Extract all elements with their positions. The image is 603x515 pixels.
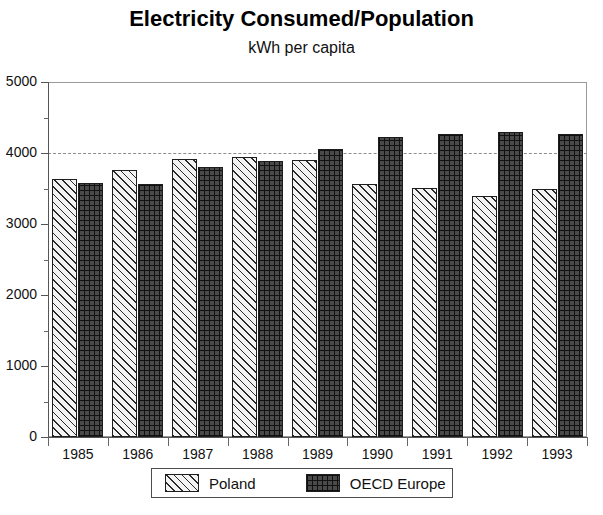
x-axis-line	[48, 437, 588, 438]
chart-subtitle: kWh per capita	[0, 39, 603, 57]
legend-item-poland: Poland	[165, 469, 256, 497]
y-axis-tick	[41, 82, 49, 83]
legend-label-oecd-europe: OECD Europe	[350, 475, 446, 492]
x-axis-tick	[168, 437, 169, 446]
y-axis-minor-tick	[44, 189, 49, 190]
bar-oecd-europe-1986	[138, 184, 163, 437]
x-axis-tick	[587, 437, 588, 446]
bar-poland-1986	[112, 170, 137, 437]
x-axis-label: 1993	[522, 446, 592, 462]
bar-oecd-europe-1993	[558, 134, 583, 437]
x-axis-tick	[347, 437, 348, 446]
bar-oecd-europe-1991	[438, 134, 463, 437]
chart-title: Electricity Consumed/Population	[0, 6, 603, 32]
y-axis-minor-tick	[44, 118, 49, 119]
y-axis-minor-tick	[44, 402, 49, 403]
y-axis-minor-tick	[44, 331, 49, 332]
bar-poland-1985	[52, 179, 77, 437]
bar-poland-1989	[292, 160, 317, 437]
y-axis-label: 0	[0, 428, 37, 444]
y-axis-minor-tick	[44, 260, 49, 261]
y-axis-tick	[41, 224, 49, 225]
bar-poland-1991	[412, 188, 437, 437]
legend-swatch-poland-icon	[165, 474, 199, 492]
x-axis-tick	[48, 437, 49, 446]
y-axis-tick	[41, 153, 49, 154]
chart-container: Electricity Consumed/Population kWh per …	[0, 0, 603, 515]
bar-oecd-europe-1988	[258, 161, 283, 437]
x-axis-tick	[228, 437, 229, 446]
bar-oecd-europe-1989	[318, 149, 343, 437]
y-axis-label: 2000	[0, 286, 37, 302]
x-axis-tick	[527, 437, 528, 446]
legend-swatch-oecd-europe-icon	[306, 474, 340, 492]
x-axis-tick	[288, 437, 289, 446]
legend-item-oecd-europe: OECD Europe	[306, 469, 446, 497]
x-axis-tick	[467, 437, 468, 446]
legend-label-poland: Poland	[209, 475, 256, 492]
bar-oecd-europe-1992	[498, 132, 523, 437]
bar-poland-1990	[352, 184, 377, 437]
y-axis-label: 5000	[0, 73, 37, 89]
bar-poland-1987	[172, 159, 197, 437]
bar-oecd-europe-1987	[198, 167, 223, 438]
x-axis-tick	[108, 437, 109, 446]
y-axis-tick	[41, 366, 49, 367]
y-axis-tick	[41, 295, 49, 296]
bar-oecd-europe-1985	[78, 183, 103, 437]
plot-area	[48, 82, 587, 437]
bar-poland-1988	[232, 157, 257, 437]
x-axis-tick	[407, 437, 408, 446]
y-axis-label: 4000	[0, 144, 37, 160]
y-axis-label: 3000	[0, 215, 37, 231]
bar-poland-1992	[472, 196, 497, 437]
y-axis-label: 1000	[0, 357, 37, 373]
chart-legend: Poland OECD Europe	[151, 468, 453, 498]
bar-poland-1993	[532, 189, 557, 437]
bar-oecd-europe-1990	[378, 137, 403, 437]
